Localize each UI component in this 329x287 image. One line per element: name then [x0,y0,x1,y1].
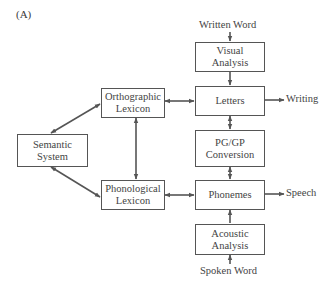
node-phonological-lexicon: Phonological Lexicon [101,180,165,210]
panel-label: (A) [16,8,31,20]
node-phonemes: Phonemes [195,180,265,210]
edge-semantic-phono [51,167,100,197]
label-spoken-word: Spoken Word [200,265,257,276]
label-speech: Speech [286,187,316,198]
node-visual-analysis: Visual Analysis [195,42,265,72]
node-orthographic-lexicon: Orthographic Lexicon [101,88,165,118]
node-acoustic-analysis: Acoustic Analysis [195,224,265,255]
edge-semantic-ortho [51,104,100,133]
label-written-word: Written Word [199,19,256,30]
label-writing: Writing [286,93,318,104]
node-semantic-system: Semantic System [17,134,88,167]
node-letters: Letters [195,86,265,116]
node-pg-gp-conversion: PG/GP Conversion [195,130,265,167]
